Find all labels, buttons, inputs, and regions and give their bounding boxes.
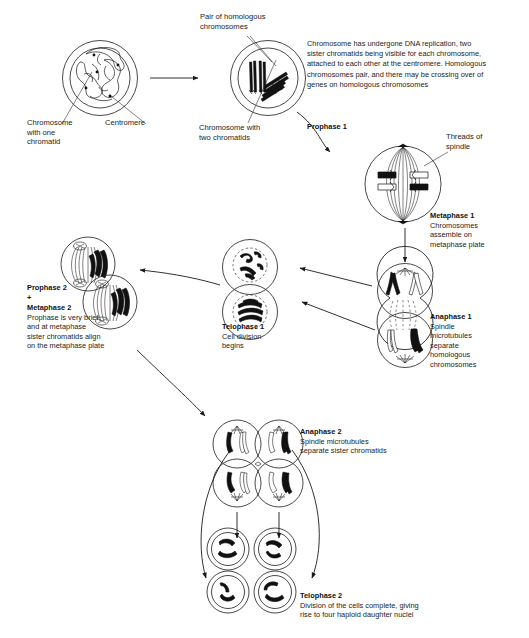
metaphase1-heading: Metaphase 1 (430, 211, 474, 220)
leader-threads-of-spindle (424, 152, 448, 166)
leader-pair-homologous-a (247, 36, 272, 62)
telophase1-description: Cell division begins (222, 332, 261, 351)
prophase2-metaphase2-description: Prophase is very brief, and at metaphase… (27, 313, 104, 351)
anaphase2-description: Spindle microtubules separate sister chr… (300, 437, 387, 456)
label-centromere: Centromere (105, 118, 145, 128)
metaphase1-description: Chromosomes assemble on metaphase plate (430, 221, 485, 249)
cell-interphase (63, 41, 138, 116)
prophase1-description: Chromosome has undergone DNA replication… (307, 39, 527, 90)
prophase2-heading: Prophase 2 (27, 283, 67, 292)
leader-chromosome-one-chromatid (62, 72, 92, 124)
arrow-anaphase1-to-telophase1-upper (300, 268, 372, 286)
cell-anaphase2 (213, 420, 303, 507)
meiosis-diagram: Chromosome with one chromatid Centromere… (0, 0, 529, 638)
arrow-anaphase2-to-telophase2-curve-right (292, 450, 319, 578)
arrow-anaphase1-to-telophase1-lower (302, 302, 375, 330)
telophase2-heading: Telophase 2 (300, 591, 342, 600)
arrow-telophase1-to-prophase2 (140, 270, 220, 285)
cell-anaphase1 (377, 246, 433, 367)
arrow-prophase2-to-anaphase2 (137, 350, 205, 416)
arrow-prophase1-to-metaphase1 (297, 112, 330, 152)
anaphase1-description: Spindle microtubules separate homologous… (430, 322, 476, 369)
anaphase2-heading: Anaphase 2 (300, 427, 342, 436)
telophase2-description: Division of the cells complete, giving r… (300, 601, 419, 620)
label-chromosome-with-one-chromatid: Chromosome with one chromatid (27, 118, 73, 147)
anaphase1-heading: Anaphase 1 (430, 312, 472, 321)
prophase1-heading: Prophase 1 (307, 122, 347, 131)
telophase1-heading: Telophase 1 (222, 322, 264, 331)
metaphase2-heading: Metaphase 2 (27, 303, 71, 312)
cell-prophase2-metaphase2-upper (61, 237, 115, 291)
prophase2-metaphase2-plus: + (27, 293, 31, 302)
label-threads-of-spindle: Threads of spindle (446, 132, 482, 151)
label-chromosome-with-two-chromatids: Chromosome with two chromatids (199, 123, 260, 142)
label-pair-of-homologous-chromosomes: Pair of homologous chromosomes (200, 12, 265, 31)
cell-telophase2 (207, 528, 296, 613)
